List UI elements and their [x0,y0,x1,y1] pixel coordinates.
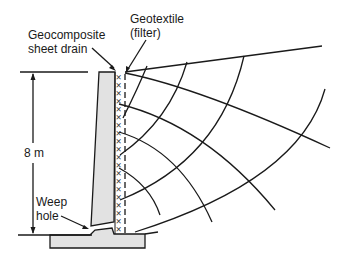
geocomposite-sheet-drain: ✕✕✕ ✕✕✕ ✕✕✕ ✕✕✕ ✕✕✕ ✕✕✕ ✕✕ [115,72,122,234]
weep-label-1: Weep [36,195,67,209]
geocomposite-leader [92,48,116,71]
weep-label-2: hole [36,209,59,223]
backfill-surface [125,46,322,72]
geocomposite-label-2: sheet drain [28,42,87,56]
equipotential-lines [120,56,325,232]
geotextile-label-2: (filter) [130,26,161,40]
wall-stem [91,72,115,226]
flow-lines [119,73,330,222]
svg-text:✕: ✕ [116,225,122,234]
retaining-wall-drainage-diagram: ✕✕✕ ✕✕✕ ✕✕✕ ✕✕✕ ✕✕✕ ✕✕✕ ✕✕ 8 m [0,0,346,263]
weep-hole-leader [61,216,89,229]
ground-line-heel [145,232,158,234]
height-label: 8 m [24,146,44,160]
footing [50,228,145,248]
geotextile-leader [126,40,146,73]
geotextile-label-1: Geotextile [130,12,184,26]
geocomposite-label-1: Geocomposite [28,28,106,42]
